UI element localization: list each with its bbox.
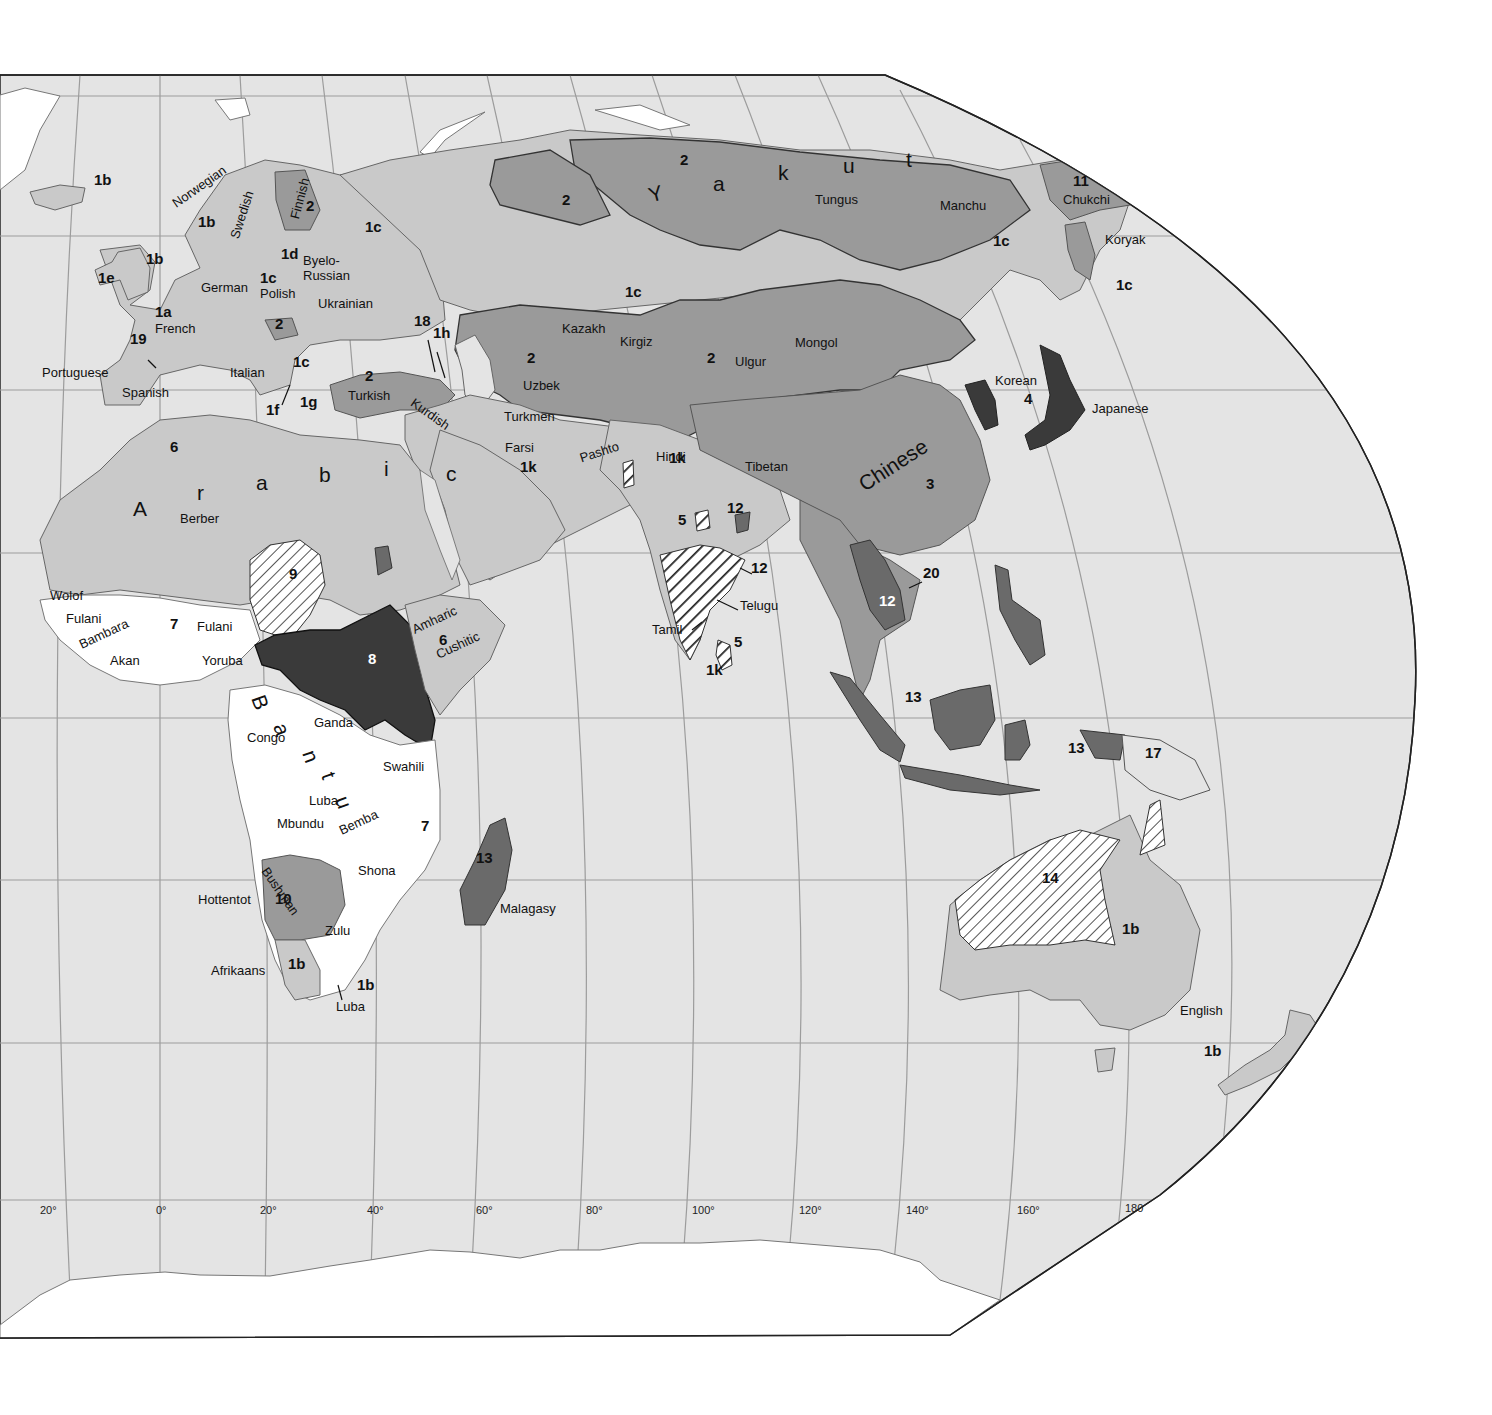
language-label: Tungus	[815, 193, 858, 206]
language-label: Ganda	[314, 716, 353, 729]
language-label: Malagasy	[500, 902, 556, 915]
language-label: Telugu	[740, 599, 778, 612]
language-family-code: 2	[707, 350, 715, 365]
language-family-code: 1b	[146, 251, 164, 266]
language-label: Berber	[180, 512, 219, 525]
language-family-code: 1c	[1116, 277, 1133, 292]
longitude-label: 60°	[476, 1205, 493, 1216]
language-family-code: 13	[1068, 740, 1085, 755]
language-label: Japanese	[1092, 402, 1148, 415]
language-family-code: 1k	[706, 662, 723, 677]
longitude-label: 120°	[799, 1205, 822, 1216]
language-family-code: 11	[1073, 173, 1089, 188]
language-label: French	[155, 322, 195, 335]
family-name-letter: b	[319, 464, 331, 485]
family-name-letter: a	[256, 472, 268, 493]
language-family-code: 6	[170, 439, 178, 454]
language-label: Swahili	[383, 760, 424, 773]
language-label: Portuguese	[42, 366, 109, 379]
language-family-code: 5	[678, 512, 686, 527]
language-family-code: 5	[734, 634, 742, 649]
language-family-code: 2	[365, 368, 373, 383]
language-label: Zulu	[325, 924, 350, 937]
language-family-code: 1b	[1204, 1043, 1222, 1058]
family-name-letter: c	[446, 463, 457, 484]
language-label: Yoruba	[202, 654, 243, 667]
language-label: Byelo-	[303, 254, 340, 267]
longitude-label: 160°	[1017, 1205, 1040, 1216]
language-family-code: 3	[926, 476, 934, 491]
longitude-label: 40°	[367, 1205, 384, 1216]
longitude-label: 20°	[40, 1205, 57, 1216]
language-label: Spanish	[122, 386, 169, 399]
language-family-code: 14	[1042, 870, 1059, 885]
language-label: Kazakh	[562, 322, 605, 335]
language-family-code: 1g	[300, 394, 318, 409]
language-label: Koryak	[1105, 233, 1145, 246]
family-name-letter: A	[133, 498, 147, 519]
language-family-code: 2	[527, 350, 535, 365]
family-name-letter: r	[197, 482, 204, 503]
language-family-code: 1b	[1122, 921, 1140, 936]
language-label: Farsi	[505, 441, 534, 454]
region-5-oval	[695, 510, 710, 531]
language-family-code: 1e	[98, 270, 115, 285]
language-family-code: 4	[1024, 391, 1032, 406]
language-label: Kirgiz	[620, 335, 653, 348]
language-label: Wolof	[50, 589, 83, 602]
language-family-code: 2	[306, 198, 314, 213]
language-label: Mbundu	[277, 817, 324, 830]
language-family-code: 1d	[281, 246, 299, 261]
language-family-code: 7	[170, 616, 178, 631]
language-label: Luba	[336, 1000, 365, 1013]
language-family-code: 1b	[357, 977, 375, 992]
language-family-code: 1c	[993, 233, 1010, 248]
language-family-code: 13	[905, 689, 922, 704]
language-label: Akan	[110, 654, 140, 667]
language-label: Manchu	[940, 199, 986, 212]
language-family-code: 12	[879, 593, 896, 608]
language-label: Fulani	[66, 612, 101, 625]
language-label: Korean	[995, 374, 1037, 387]
language-label: Shona	[358, 864, 396, 877]
language-family-code: 1a	[155, 304, 172, 319]
longitude-label: 140°	[906, 1205, 929, 1216]
language-family-code: 9	[289, 566, 297, 581]
region-pashto-oval	[623, 460, 634, 488]
language-label: German	[201, 281, 248, 294]
longitude-label: 80°	[586, 1205, 603, 1216]
language-family-code: 1b	[198, 214, 216, 229]
language-family-code: 1k	[520, 459, 537, 474]
language-label: Italian	[230, 366, 265, 379]
tasmania	[1095, 1048, 1115, 1072]
language-family-code: 1b	[94, 172, 112, 187]
family-name-letter: u	[843, 155, 855, 176]
language-family-code: 1b	[288, 956, 306, 971]
language-label: Turkmen	[504, 410, 555, 423]
longitude-label: 0°	[156, 1205, 167, 1216]
language-label: Afrikaans	[211, 964, 265, 977]
language-label: Hottentot	[198, 893, 251, 906]
family-name-letter: k	[778, 162, 789, 183]
language-family-code: 1c	[365, 219, 382, 234]
longitude-label: 180	[1125, 1203, 1143, 1214]
language-family-code: 1h	[433, 325, 451, 340]
language-family-code: 2	[275, 316, 283, 331]
language-family-code: 8	[368, 651, 376, 666]
language-label: Russian	[303, 269, 350, 282]
language-label: Ulgur	[735, 355, 766, 368]
language-family-code: 19	[130, 331, 147, 346]
language-family-code: 12	[727, 500, 744, 515]
language-family-code: 10	[275, 891, 292, 906]
language-family-code: 17	[1145, 745, 1162, 760]
language-family-code: 1k	[669, 450, 686, 465]
language-family-code: 2	[680, 152, 688, 167]
language-label: Tibetan	[745, 460, 788, 473]
language-family-code: 1c	[625, 284, 642, 299]
language-family-code: 13	[476, 850, 493, 865]
language-label: Tamil	[652, 623, 682, 636]
longitude-label: 100°	[692, 1205, 715, 1216]
language-label: Fulani	[197, 620, 232, 633]
language-label: Mongol	[795, 336, 838, 349]
family-name-letter: a	[713, 173, 725, 194]
